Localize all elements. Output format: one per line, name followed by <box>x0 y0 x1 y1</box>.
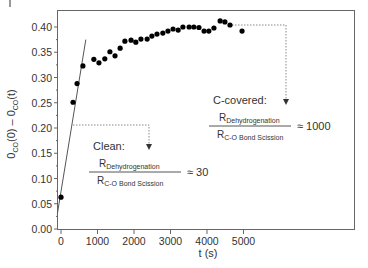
data-point <box>122 39 127 44</box>
c-covered-leader-line <box>232 25 286 100</box>
data-point <box>138 37 143 42</box>
y-tick-label: 0.40 <box>32 21 53 33</box>
x-axis-title: t (s) <box>199 247 218 259</box>
data-point <box>165 28 170 33</box>
data-points <box>58 18 244 199</box>
data-point <box>96 60 101 65</box>
x-tick-label: 2000 <box>122 235 146 247</box>
data-point <box>196 25 201 30</box>
data-point <box>211 25 216 30</box>
c-covered-annotation: C-covered:RDehydrogenationRC-O Bond Scis… <box>209 94 331 141</box>
data-point <box>118 46 123 51</box>
data-point <box>201 28 206 33</box>
y-tick-label: 0.05 <box>32 198 53 210</box>
y-tick-label: 0.25 <box>32 97 53 109</box>
y-tick-label: 0.00 <box>32 223 53 235</box>
data-point <box>218 18 223 23</box>
x-axis: 010002000300040005000 <box>58 229 255 247</box>
data-point <box>180 24 185 29</box>
x-tick-label: 0 <box>58 235 64 247</box>
data-point <box>239 28 244 33</box>
svg-text:≈ 1000: ≈ 1000 <box>297 120 331 132</box>
data-point <box>133 40 138 45</box>
y-tick-label: 0.20 <box>32 122 53 134</box>
chart: 0.000.050.100.150.200.250.300.350.40 010… <box>0 0 368 268</box>
data-point <box>80 63 85 68</box>
svg-text:RDehydrogenation: RDehydrogenation <box>219 112 280 125</box>
data-point <box>222 19 227 24</box>
y-tick-label: 0.10 <box>32 173 53 185</box>
y-tick-label: 0.15 <box>32 147 53 159</box>
svg-text:C-covered:: C-covered: <box>213 94 267 106</box>
corner-mark <box>9 0 11 7</box>
svg-text:RC-O Bond Scission: RC-O Bond Scission <box>97 175 163 187</box>
y-axis: 0.000.050.100.150.200.250.300.350.40 <box>32 21 58 235</box>
svg-text:Clean:: Clean: <box>93 140 125 152</box>
x-tick-label: 4000 <box>195 235 219 247</box>
svg-text:RDehydrogenation: RDehydrogenation <box>99 158 160 171</box>
data-point <box>58 195 63 200</box>
data-point <box>160 30 165 35</box>
data-point <box>176 27 181 32</box>
data-point <box>107 49 112 54</box>
x-tick-label: 3000 <box>159 235 183 247</box>
data-point <box>154 31 159 36</box>
data-point <box>91 57 96 62</box>
data-point <box>70 100 75 105</box>
data-point <box>74 81 79 86</box>
data-point <box>145 37 150 42</box>
y-axis-title: 0CO(0) – 0CO(t) <box>5 89 19 158</box>
svg-text:RC-O Bond Scission: RC-O Bond Scission <box>217 129 283 141</box>
svg-text:0CO(0) – 0CO(t): 0CO(0) – 0CO(t) <box>5 89 19 158</box>
data-point <box>102 56 107 61</box>
svg-text:≈ 30: ≈ 30 <box>187 166 208 178</box>
data-point <box>227 22 232 27</box>
data-point <box>191 24 196 29</box>
x-tick-label: 5000 <box>232 235 256 247</box>
data-point <box>112 53 117 58</box>
y-tick-label: 0.35 <box>32 46 53 58</box>
x-tick-label: 1000 <box>86 235 110 247</box>
data-point <box>149 33 154 38</box>
arrow-down-icon <box>146 144 152 150</box>
data-point <box>170 26 175 31</box>
y-tick-label: 0.30 <box>32 72 53 84</box>
annotations: Clean:RDehydrogenationRC-O Bond Scission… <box>73 25 331 187</box>
data-point <box>206 28 211 33</box>
data-point <box>187 24 192 29</box>
data-point <box>128 38 133 43</box>
arrow-down-icon <box>283 99 289 105</box>
